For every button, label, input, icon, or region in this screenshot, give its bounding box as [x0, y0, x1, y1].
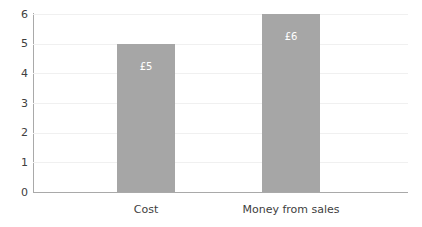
y-tick-label-0: 0	[2, 187, 28, 198]
gridline-6	[33, 14, 408, 15]
gridline-1	[33, 162, 408, 163]
y-tick-label-3: 3	[2, 98, 28, 109]
bar-cost[interactable]: £5	[117, 44, 175, 192]
plot-area: £5 £6	[33, 14, 408, 192]
bar-value-label-cost: £5	[117, 62, 175, 72]
y-tick-label-1: 1	[2, 157, 28, 168]
gridline-2	[33, 133, 408, 134]
bar-chart: 6 5 4 3 2 1 0 £5 £6 Cost Money from sale…	[0, 0, 422, 227]
y-tick-label-5: 5	[2, 38, 28, 49]
x-tick-label-money-from-sales: Money from sales	[231, 204, 351, 216]
x-tick-label-cost: Cost	[86, 204, 206, 216]
y-tick-label-4: 4	[2, 68, 28, 79]
gridline-5	[33, 44, 408, 45]
bar-money-from-sales[interactable]: £6	[262, 14, 320, 192]
y-tick-label-6: 6	[2, 9, 28, 20]
y-axis-labels: 6 5 4 3 2 1 0	[0, 0, 28, 227]
bar-value-label-money-from-sales: £6	[262, 32, 320, 42]
y-tick-label-2: 2	[2, 127, 28, 138]
x-axis-line	[33, 192, 408, 193]
gridline-3	[33, 103, 408, 104]
gridline-4	[33, 73, 408, 74]
